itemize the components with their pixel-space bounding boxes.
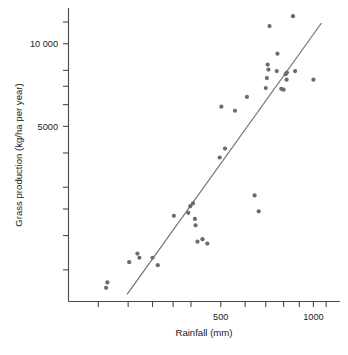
data-point xyxy=(284,78,288,82)
data-point xyxy=(150,256,154,260)
data-point xyxy=(186,211,190,215)
data-point xyxy=(291,14,295,18)
data-point xyxy=(311,78,315,82)
data-point xyxy=(267,24,271,28)
data-point xyxy=(285,71,289,75)
data-point xyxy=(275,52,279,56)
data-point xyxy=(218,155,222,159)
x-axis-title: Rainfall (mm) xyxy=(175,327,232,338)
data-point xyxy=(233,109,237,113)
data-points-group xyxy=(104,14,316,290)
data-point xyxy=(172,214,176,218)
y-tick-label: 5000 xyxy=(38,122,58,132)
data-point xyxy=(219,105,223,109)
data-point xyxy=(293,69,297,73)
data-point xyxy=(195,240,199,244)
axes-group xyxy=(69,8,341,302)
data-point xyxy=(266,68,270,72)
y-axis-tick-labels: 500010 000 xyxy=(30,39,58,132)
data-point xyxy=(245,95,249,99)
x-tick-label: 500 xyxy=(213,312,228,322)
data-point xyxy=(156,263,160,267)
data-point xyxy=(265,76,269,80)
plot-canvas: 500010 000 5001000 Rainfall (mm) Grass p… xyxy=(0,0,348,355)
regression-line xyxy=(127,23,321,294)
data-point xyxy=(253,193,257,197)
y-tick-label: 10 000 xyxy=(30,39,58,49)
data-point xyxy=(264,86,268,90)
data-point xyxy=(137,256,141,260)
data-point xyxy=(282,88,286,92)
data-point xyxy=(127,260,131,264)
data-point xyxy=(205,241,209,245)
data-point xyxy=(193,223,197,227)
data-point xyxy=(275,69,279,73)
x-axis-tick-labels: 5001000 xyxy=(213,312,324,322)
x-axis-ticks xyxy=(98,302,326,308)
scatter-plot-figure: 500010 000 5001000 Rainfall (mm) Grass p… xyxy=(0,0,348,355)
data-point xyxy=(200,237,204,241)
data-point xyxy=(104,286,108,290)
data-point xyxy=(257,209,261,213)
data-point xyxy=(223,146,227,150)
data-point xyxy=(191,201,195,205)
x-tick-label: 1000 xyxy=(303,312,323,322)
data-point xyxy=(193,217,197,221)
data-point xyxy=(135,251,139,255)
y-axis-ticks xyxy=(63,22,69,270)
data-point xyxy=(105,280,109,284)
data-point xyxy=(266,62,270,66)
y-axis-title: Grass production (kg/ha per year) xyxy=(13,83,24,226)
